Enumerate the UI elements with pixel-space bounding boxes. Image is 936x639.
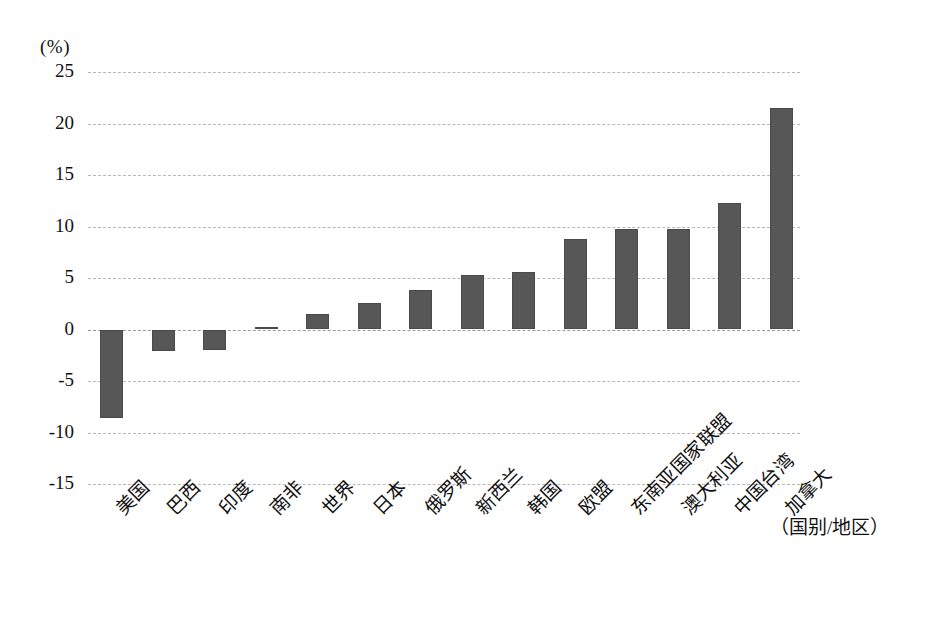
bar bbox=[461, 275, 484, 330]
bar bbox=[203, 330, 226, 351]
y-axis-tick-label: -10 bbox=[30, 421, 74, 443]
y-axis-tick-label: 20 bbox=[30, 112, 74, 134]
y-axis-unit-label: (%) bbox=[40, 36, 70, 58]
bar bbox=[512, 272, 535, 330]
bar bbox=[255, 327, 278, 329]
bar bbox=[564, 239, 587, 330]
y-axis-tick-label: 5 bbox=[30, 266, 74, 288]
y-axis-tick-label: 25 bbox=[30, 60, 74, 82]
bar bbox=[718, 203, 741, 330]
bar bbox=[409, 290, 432, 329]
bar bbox=[615, 229, 638, 330]
bar bbox=[306, 314, 329, 329]
y-axis-tick-label: -15 bbox=[30, 472, 74, 494]
x-axis-title: （国别/地区） bbox=[770, 512, 889, 539]
y-axis-tick-label: -5 bbox=[30, 369, 74, 391]
bar bbox=[770, 108, 793, 329]
bar bbox=[152, 330, 175, 352]
bar bbox=[358, 303, 381, 330]
bar bbox=[100, 330, 123, 419]
y-axis-tick-label: 0 bbox=[30, 318, 74, 340]
bar-series bbox=[88, 72, 800, 484]
y-axis-tick-label: 15 bbox=[30, 163, 74, 185]
y-axis-tick-label: 10 bbox=[30, 215, 74, 237]
bar-chart: (%) 2520151050-5-10-15 美国巴西印度南非世界日本俄罗斯新西… bbox=[0, 0, 936, 639]
bar bbox=[667, 229, 690, 330]
